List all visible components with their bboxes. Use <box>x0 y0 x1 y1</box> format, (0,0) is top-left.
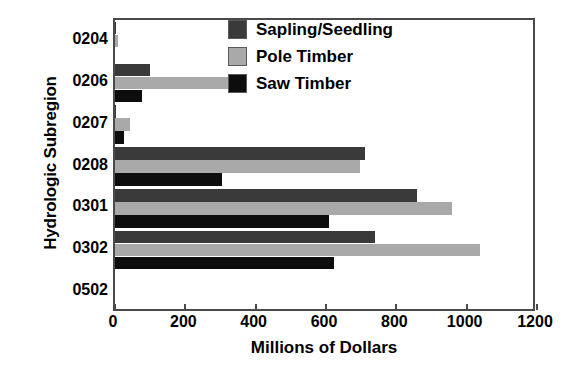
x-tick-mark-600 <box>325 304 327 310</box>
legend-label: Sapling/Seedling <box>256 21 393 38</box>
x-tick-mark-1000 <box>466 304 468 310</box>
x-tick-mark-400 <box>255 304 257 310</box>
bar-chart-figure: Hydrologic Subregion 0204020602070208030… <box>0 0 587 388</box>
legend-swatch-icon <box>228 74 247 93</box>
legend-label: Saw Timber <box>256 75 351 92</box>
bar-0204-pole-timber <box>115 35 118 48</box>
bar-0208-saw-timber <box>115 173 222 186</box>
bar-0206-sapling-seedling <box>115 64 150 77</box>
bar-0302-sapling-seedling <box>115 231 375 244</box>
chart-legend: Sapling/SeedlingPole TimberSaw Timber <box>228 18 393 94</box>
legend-item-sapling-seedling: Sapling/Seedling <box>228 18 393 40</box>
legend-item-saw-timber: Saw Timber <box>228 72 393 94</box>
x-tick-label-200: 200 <box>170 313 197 331</box>
x-tick-label-400: 400 <box>240 313 267 331</box>
x-tick-mark-0 <box>114 304 116 310</box>
y-tick-label-0302: 0302 <box>46 239 108 257</box>
x-tick-label-800: 800 <box>381 313 408 331</box>
y-tick-label-0204: 0204 <box>46 30 108 48</box>
x-axis-tick-labels: 020040060080010001200 <box>113 313 535 337</box>
legend-item-pole-timber: Pole Timber <box>228 45 393 67</box>
y-tick-label-0208: 0208 <box>46 156 108 174</box>
bar-0206-saw-timber <box>115 90 142 103</box>
bar-0302-pole-timber <box>115 244 480 257</box>
x-axis-title: Millions of Dollars <box>113 338 535 358</box>
y-tick-label-0502: 0502 <box>46 281 108 299</box>
bar-0206-pole-timber <box>115 77 245 90</box>
x-tick-label-0: 0 <box>109 313 118 331</box>
legend-swatch-icon <box>228 47 247 66</box>
x-tick-mark-1200 <box>536 304 538 310</box>
bar-0207-pole-timber <box>115 118 130 131</box>
bar-0208-sapling-seedling <box>115 147 365 160</box>
y-tick-label-0301: 0301 <box>46 197 108 215</box>
x-tick-mark-800 <box>395 304 397 310</box>
bar-0207-sapling-seedling <box>115 105 116 118</box>
x-tick-label-1000: 1000 <box>447 313 483 331</box>
legend-label: Pole Timber <box>256 48 353 65</box>
bar-0301-pole-timber <box>115 202 452 215</box>
y-axis-tick-labels: 0204020602070208030103020502 <box>46 18 108 311</box>
bar-0204-sapling-seedling <box>115 22 116 35</box>
legend-swatch-icon <box>228 20 247 39</box>
bar-0301-saw-timber <box>115 215 329 228</box>
y-tick-label-0206: 0206 <box>46 72 108 90</box>
x-tick-label-1200: 1200 <box>517 313 553 331</box>
bar-0302-saw-timber <box>115 257 334 270</box>
y-tick-label-0207: 0207 <box>46 114 108 132</box>
x-tick-label-600: 600 <box>311 313 338 331</box>
bar-0301-sapling-seedling <box>115 189 417 202</box>
bar-0208-pole-timber <box>115 160 360 173</box>
bar-0207-saw-timber <box>115 131 124 144</box>
x-tick-mark-200 <box>184 304 186 310</box>
